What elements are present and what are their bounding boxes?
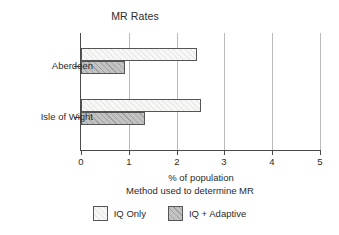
legend-swatch-iq-only-icon — [93, 206, 108, 221]
x-axis-tick-label: 3 — [214, 156, 234, 167]
plot-area — [81, 33, 320, 150]
mr-rates-bar-chart: MR Rates % of population Method used to … — [0, 0, 339, 235]
y-axis-label-aberdeen: Aberdeen — [52, 60, 93, 71]
x-axis-tick-label: 2 — [167, 156, 187, 167]
x-axis-tick — [177, 150, 178, 155]
gridline — [320, 33, 321, 150]
bar-aberdeen-iq-only — [81, 48, 197, 61]
y-axis-label-isle-of-wight: Isle of Wight — [41, 111, 93, 122]
x-axis-tick — [272, 150, 273, 155]
legend: IQ Only IQ + Adaptive — [0, 206, 339, 221]
gridline — [272, 33, 273, 150]
legend-title: Method used to determine MR — [60, 185, 320, 196]
x-axis-tick-label: 4 — [262, 156, 282, 167]
chart-title: MR Rates — [0, 10, 270, 22]
legend-swatch-iq-adaptive-icon — [168, 206, 183, 221]
x-axis-tick — [81, 150, 82, 155]
x-axis-tick — [129, 150, 130, 155]
x-axis-tick-label: 5 — [310, 156, 330, 167]
x-axis-tick-label: 1 — [119, 156, 139, 167]
gridline — [224, 33, 225, 150]
x-axis-tick-label: 0 — [71, 156, 91, 167]
legend-label-iq-adaptive: IQ + Adaptive — [189, 208, 246, 219]
x-axis-tick — [224, 150, 225, 155]
x-axis-tick — [320, 150, 321, 155]
x-axis-label: % of population — [81, 172, 321, 183]
x-axis-line — [81, 150, 321, 151]
bar-isle-of-wight-iq-only — [81, 99, 201, 112]
legend-entry-iq-only[interactable]: IQ Only — [93, 206, 146, 221]
legend-entry-iq-adaptive[interactable]: IQ + Adaptive — [168, 206, 246, 221]
legend-label-iq-only: IQ Only — [114, 208, 146, 219]
